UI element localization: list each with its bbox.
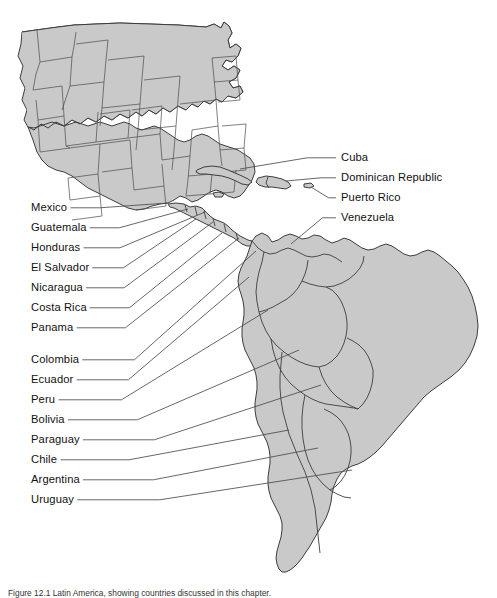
map-label-honduras: Honduras (31, 242, 80, 253)
map-label-chile: Chile (31, 454, 57, 465)
map-label-argentina: Argentina (31, 474, 80, 485)
map-label-el-salvador: El Salvador (31, 262, 89, 273)
map-label-paraguay: Paraguay (31, 434, 80, 445)
south-america-shape (238, 233, 478, 572)
map-label-ecuador: Ecuador (31, 374, 73, 385)
map-label-bolivia: Bolivia (31, 414, 65, 425)
puerto-rico-shape (304, 183, 314, 188)
map-label-panama: Panama (31, 322, 73, 333)
map-label-colombia: Colombia (31, 354, 79, 365)
map-label-dominican-republic: Dominican Republic (341, 172, 442, 183)
map-label-guatemala: Guatemala (31, 222, 87, 233)
map-label-peru: Peru (31, 394, 55, 405)
map-label-nicaragua: Nicaragua (31, 282, 83, 293)
map-label-uruguay: Uruguay (31, 494, 74, 505)
map-label-venezuela: Venezuela (341, 212, 394, 223)
figure-caption: Figure 12.1 Latin America, showing count… (8, 588, 497, 598)
map-label-mexico: Mexico (31, 202, 67, 213)
map-label-costa-rica: Costa Rica (31, 302, 87, 313)
map-label-cuba: Cuba (341, 152, 368, 163)
hispaniola-shape (256, 176, 291, 189)
south-america-landmass (238, 233, 478, 572)
map-label-puerto-rico: Puerto Rico (341, 192, 401, 203)
